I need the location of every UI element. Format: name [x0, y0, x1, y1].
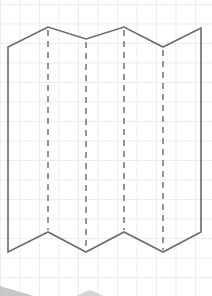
folded-strip-diagram — [0, 0, 212, 296]
shadow-wedge-middle — [76, 290, 104, 296]
shadow-wedge-left — [0, 286, 34, 296]
grid-paper-background — [0, 0, 212, 296]
fold-lines — [48, 30, 163, 250]
strip-outline — [8, 27, 201, 252]
